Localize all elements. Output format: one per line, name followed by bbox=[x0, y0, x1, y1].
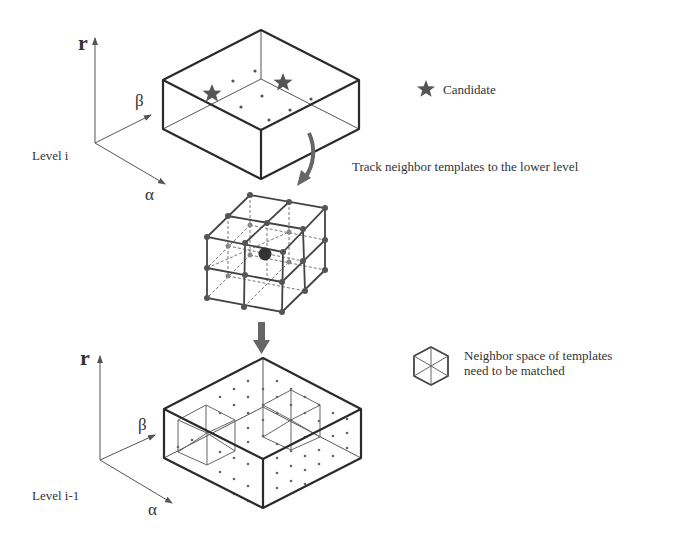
candidate-star-icon bbox=[203, 84, 222, 102]
bottom-beta-axis bbox=[100, 435, 155, 460]
level-i-box bbox=[163, 30, 359, 179]
bottom-alpha-label: α bbox=[148, 500, 157, 519]
template-dots bbox=[231, 69, 312, 121]
star-icon bbox=[417, 80, 435, 97]
down-arrow bbox=[253, 322, 270, 354]
top-alpha-label: α bbox=[145, 185, 154, 204]
top-beta-axis bbox=[95, 115, 151, 143]
top-axes: r β α Level i bbox=[32, 30, 165, 204]
arrow-down-icon bbox=[253, 340, 270, 354]
legend-neighbor-line1: Neighbor space of templates bbox=[464, 348, 612, 363]
cube-icon bbox=[414, 347, 448, 385]
candidate-star-icon bbox=[274, 73, 293, 91]
top-alpha-axis bbox=[95, 143, 165, 184]
bottom-level-label: Level i-1 bbox=[32, 488, 79, 503]
level-i-1-box bbox=[164, 358, 361, 508]
neighbor-region-left bbox=[178, 405, 235, 465]
bottom-r-label: r bbox=[80, 345, 90, 370]
bottom-alpha-axis bbox=[100, 460, 172, 503]
bottom-axes: r β α Level i-1 bbox=[32, 345, 172, 519]
track-label: Track neighbor templates to the lower le… bbox=[352, 159, 579, 174]
top-r-label: r bbox=[78, 30, 88, 55]
center-candidate-dot bbox=[259, 248, 272, 261]
top-level-label: Level i bbox=[32, 148, 69, 163]
neighbor-cube bbox=[204, 192, 328, 315]
neighbor-region-right bbox=[263, 390, 320, 450]
diagram-canvas: r β α Level i Candidate bbox=[0, 0, 693, 541]
top-beta-label: β bbox=[135, 91, 144, 110]
legend-candidate: Candidate bbox=[417, 80, 496, 97]
legend-neighbor: Neighbor space of templates need to be m… bbox=[414, 347, 612, 385]
legend-candidate-label: Candidate bbox=[443, 82, 496, 97]
bottom-beta-label: β bbox=[138, 415, 147, 434]
legend-neighbor-line2: need to be matched bbox=[464, 363, 565, 378]
